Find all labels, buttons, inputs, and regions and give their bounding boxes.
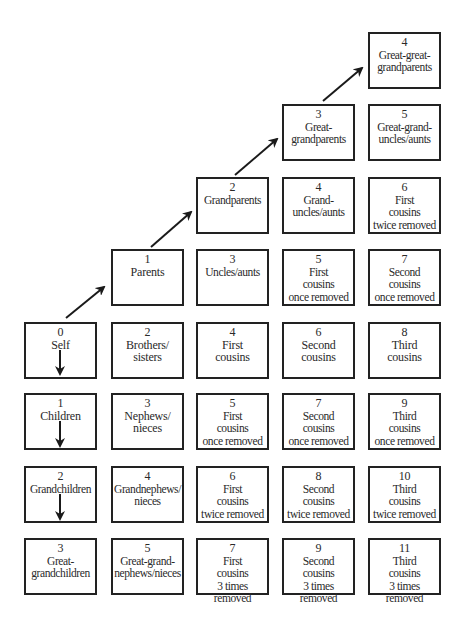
degree-number: 2 (198, 181, 267, 194)
box-grandchildren: 2 Grandchildren (24, 466, 97, 523)
degree-number: 11 (370, 542, 439, 555)
relation-label: Parents (113, 266, 182, 279)
relation-label: Grandparents (198, 194, 267, 207)
relation-label: Great- grandparents (284, 121, 353, 146)
relation-label: Great-grand- uncles/aunts (370, 121, 439, 146)
degree-number: 1 (113, 253, 182, 266)
relation-label: First cousins once removed (198, 410, 267, 448)
box-second-cousins-once-removed-up: 7 Second cousins once removed (368, 249, 441, 306)
degree-number: 1 (26, 397, 95, 410)
box-self: 0 Self (24, 322, 97, 379)
box-uncles-aunts: 3 Uncles/aunts (196, 249, 269, 306)
relation-label: Third cousins (370, 339, 439, 364)
box-parents: 1 Parents (111, 249, 184, 306)
box-second-cousins: 6 Second cousins (282, 322, 355, 379)
degree-number: 6 (198, 470, 267, 483)
box-great-great-grandparents: 4 Great-great- grandparents (368, 32, 441, 89)
relation-label: Grandnephews/ nieces (113, 483, 182, 508)
box-second-cousins-3-times-removed: 9 Second cousins 3 times removed (282, 538, 355, 595)
relation-label: Second cousins once removed (370, 266, 439, 304)
box-third-cousins-once-removed: 9 Third cousins once removed (368, 393, 441, 450)
degree-number: 9 (284, 542, 353, 555)
arrow-up-icon (323, 68, 362, 101)
relation-label: Brothers/ sisters (113, 339, 182, 364)
box-nephews-nieces: 3 Nephews/ nieces (111, 393, 184, 450)
degree-number: 4 (370, 36, 439, 49)
degree-number: 3 (26, 542, 95, 555)
relation-label: Grand- uncles/aunts (284, 194, 353, 219)
degree-number: 4 (284, 181, 353, 194)
box-first-cousins-twice-removed-up: 6 First cousins twice removed (368, 177, 441, 234)
arrow-up-icon (235, 139, 277, 175)
relation-label: Uncles/aunts (198, 266, 267, 279)
box-first-cousins-twice-removed: 6 First cousins twice removed (196, 466, 269, 523)
box-second-cousins-twice-removed: 8 Second cousins twice removed (282, 466, 355, 523)
relation-label: Grandchildren (26, 483, 95, 496)
degree-number: 5 (370, 108, 439, 121)
box-third-cousins-3-times-removed: 11 Third cousins 3 times removed (368, 538, 441, 595)
relation-label: Second cousins once removed (284, 410, 353, 448)
degree-number: 6 (370, 181, 439, 194)
relation-label: First cousins once removed (284, 266, 353, 304)
arrow-up-icon (66, 287, 104, 318)
relation-label: Third cousins once removed (370, 410, 439, 448)
arrow-up-icon (151, 212, 191, 247)
degree-number: 5 (284, 253, 353, 266)
box-third-cousins: 8 Third cousins (368, 322, 441, 379)
box-first-cousins-3-times-removed: 7 First cousins 3 times removed (196, 538, 269, 595)
degree-number: 8 (370, 326, 439, 339)
relation-label: Great- grandchildren (26, 555, 95, 580)
relation-label: Great-grand- nephews/nieces (113, 555, 182, 580)
box-first-cousins: 4 First cousins (196, 322, 269, 379)
relation-label: Nephews/ nieces (113, 410, 182, 435)
box-children: 1 Children (24, 393, 97, 450)
box-grand-uncles-aunts: 4 Grand- uncles/aunts (282, 177, 355, 234)
degree-number: 8 (284, 470, 353, 483)
degree-number: 5 (198, 397, 267, 410)
degree-number: 3 (284, 108, 353, 121)
degree-number: 7 (284, 397, 353, 410)
relation-label: Second cousins 3 times removed (284, 555, 353, 605)
arrows-layer (0, 0, 464, 628)
relation-label: Self (26, 339, 95, 352)
box-first-cousins-once-removed-up: 5 First cousins once removed (282, 249, 355, 306)
relation-label: Second cousins (284, 339, 353, 364)
relation-label: Second cousins twice removed (284, 483, 353, 521)
box-first-cousins-once-removed: 5 First cousins once removed (196, 393, 269, 450)
box-second-cousins-once-removed: 7 Second cousins once removed (282, 393, 355, 450)
degree-number: 7 (370, 253, 439, 266)
relation-label: First cousins (198, 339, 267, 364)
relation-label: Great-great- grandparents (370, 49, 439, 74)
degree-number: 4 (113, 470, 182, 483)
degree-number: 5 (113, 542, 182, 555)
box-great-grandchildren: 3 Great- grandchildren (24, 538, 97, 595)
relation-label: Third cousins twice removed (370, 483, 439, 521)
kinship-diagram: 0 Self 1 Children 2 Grandchildren 3 Grea… (0, 0, 464, 628)
degree-number: 3 (198, 253, 267, 266)
box-brothers-sisters: 2 Brothers/ sisters (111, 322, 184, 379)
box-grandnephews-nieces: 4 Grandnephews/ nieces (111, 466, 184, 523)
degree-number: 9 (370, 397, 439, 410)
degree-number: 10 (370, 470, 439, 483)
degree-number: 2 (113, 326, 182, 339)
degree-number: 7 (198, 542, 267, 555)
box-grandparents: 2 Grandparents (196, 177, 269, 234)
box-great-grandparents: 3 Great- grandparents (282, 104, 355, 161)
relation-label: First cousins twice removed (198, 483, 267, 521)
box-third-cousins-twice-removed: 10 Third cousins twice removed (368, 466, 441, 523)
degree-number: 2 (26, 470, 95, 483)
degree-number: 3 (113, 397, 182, 410)
box-great-grand-uncles-aunts: 5 Great-grand- uncles/aunts (368, 104, 441, 161)
relation-label: Children (26, 410, 95, 423)
degree-number: 6 (284, 326, 353, 339)
box-great-grand-nephews-nieces: 5 Great-grand- nephews/nieces (111, 538, 184, 595)
relation-label: First cousins twice removed (370, 194, 439, 232)
relation-label: Third cousins 3 times removed (370, 555, 439, 605)
relation-label: First cousins 3 times removed (198, 555, 267, 605)
degree-number: 0 (26, 326, 95, 339)
degree-number: 4 (198, 326, 267, 339)
